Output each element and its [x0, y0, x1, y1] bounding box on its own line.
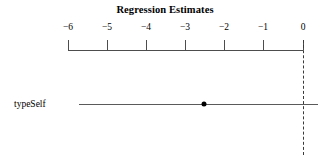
x-tick-label-neg5: −5 [102, 21, 112, 33]
x-tick-label-neg6: −6 [63, 21, 73, 33]
regression-estimates-plot: Regression Estimates −6 −5 −4 −3 −2 −1 0… [0, 0, 330, 163]
x-axis-tick-neg4 [146, 40, 147, 50]
x-tick-label-neg2: −2 [219, 21, 229, 33]
x-tick-label-neg4: −4 [141, 21, 151, 33]
x-tick-label-neg1: −1 [258, 21, 268, 33]
point-estimate-marker [202, 102, 207, 107]
x-axis-tick-neg5 [107, 40, 108, 50]
x-tick-label-zero: 0 [301, 21, 306, 33]
x-axis-tick-labels: −6 −5 −4 −3 −2 −1 0 [0, 21, 330, 35]
x-axis-tick-neg1 [263, 40, 264, 50]
x-axis-tick-neg6 [68, 40, 69, 50]
x-axis-tick-neg3 [185, 40, 186, 50]
x-axis-tick-neg2 [224, 40, 225, 50]
confidence-interval-line [79, 104, 318, 105]
x-axis-line [68, 50, 303, 51]
zero-reference-line [303, 40, 304, 155]
x-tick-label-neg3: −3 [180, 21, 190, 33]
coefficient-row-label: typeSelf [14, 98, 46, 110]
page-title: Regression Estimates [0, 4, 330, 15]
